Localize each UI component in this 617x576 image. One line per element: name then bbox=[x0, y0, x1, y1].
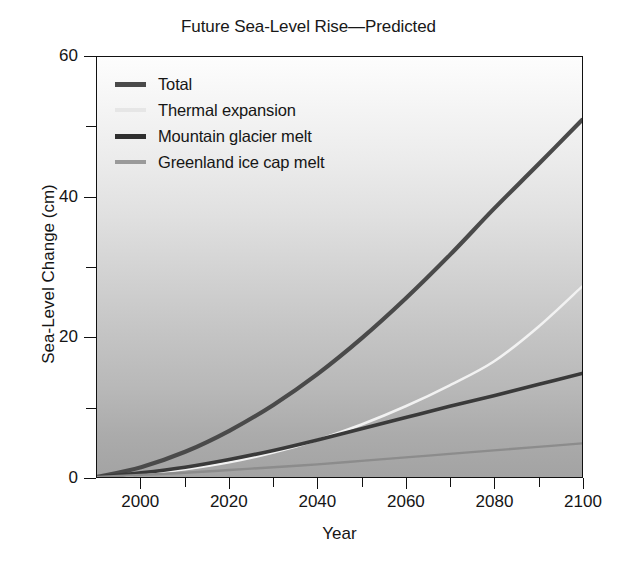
x-axis-major-tick bbox=[140, 478, 141, 489]
legend-swatch-icon bbox=[115, 82, 146, 87]
x-axis-minor-tick bbox=[273, 478, 274, 487]
x-axis-title: Year bbox=[96, 524, 583, 544]
legend-item-label: Greenland ice cap melt bbox=[158, 153, 324, 172]
y-axis-minor-tick bbox=[86, 267, 96, 268]
plot-area: TotalThermal expansionMountain glacier m… bbox=[96, 56, 583, 478]
x-axis-major-tick bbox=[494, 478, 495, 489]
legend-item-label: Mountain glacier melt bbox=[158, 127, 312, 146]
legend-item[interactable]: Thermal expansion bbox=[115, 97, 324, 123]
y-axis-title: Sea-Level Change (cm) bbox=[39, 124, 59, 424]
legend-swatch-icon bbox=[115, 108, 146, 112]
x-axis-tick-label: 2080 bbox=[476, 492, 514, 512]
legend-item[interactable]: Mountain glacier melt bbox=[115, 123, 324, 149]
x-axis-minor-tick bbox=[539, 478, 540, 487]
y-axis-tick-label: 0 bbox=[0, 468, 78, 488]
legend-item[interactable]: Greenland ice cap melt bbox=[115, 149, 324, 175]
chart-title: Future Sea-Level Rise—Predicted bbox=[0, 17, 617, 37]
y-axis-minor-tick bbox=[86, 126, 96, 127]
x-axis-tick-label: 2100 bbox=[564, 492, 602, 512]
y-axis-major-tick bbox=[84, 337, 96, 338]
legend-item-label: Total bbox=[158, 75, 192, 94]
x-axis-major-tick bbox=[583, 478, 584, 489]
x-axis-tick-label: 2060 bbox=[387, 492, 425, 512]
legend-item[interactable]: Total bbox=[115, 71, 324, 97]
y-axis-major-tick bbox=[84, 197, 96, 198]
y-axis-minor-tick bbox=[86, 408, 96, 409]
x-axis-major-tick bbox=[229, 478, 230, 489]
x-axis-minor-tick bbox=[185, 478, 186, 487]
legend-item-label: Thermal expansion bbox=[158, 101, 296, 120]
series-line-2 bbox=[97, 373, 582, 477]
y-axis-major-tick bbox=[84, 56, 96, 57]
chart-legend: TotalThermal expansionMountain glacier m… bbox=[115, 71, 324, 175]
x-axis-tick-label: 2040 bbox=[298, 492, 336, 512]
legend-swatch-icon bbox=[115, 160, 146, 164]
x-axis-major-tick bbox=[406, 478, 407, 489]
x-axis-minor-tick bbox=[450, 478, 451, 487]
chart-figure: Future Sea-Level Rise—Predicted TotalThe… bbox=[0, 0, 617, 576]
y-axis-major-tick bbox=[84, 478, 96, 479]
x-axis-tick-label: 2000 bbox=[121, 492, 159, 512]
legend-swatch-icon bbox=[115, 134, 146, 139]
x-axis-major-tick bbox=[317, 478, 318, 489]
x-axis-tick-label: 2020 bbox=[210, 492, 248, 512]
x-axis-minor-tick bbox=[362, 478, 363, 487]
y-axis-tick-label: 60 bbox=[0, 46, 78, 66]
